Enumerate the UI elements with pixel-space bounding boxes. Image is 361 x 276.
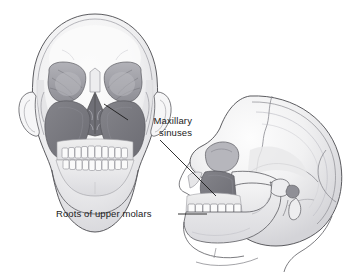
- skull-illustration: [0, 0, 361, 276]
- lateral-lower-jaw-bottom: [196, 258, 258, 265]
- anterior-left-orbit-highlight: [55, 72, 81, 96]
- nasal-bone: [90, 68, 100, 92]
- label-maxillary-sinuses-line1: Maxillary: [130, 115, 192, 127]
- anterior-right-orbit-highlight: [109, 72, 135, 96]
- anterior-upper-teeth: [62, 146, 128, 158]
- label-maxillary-sinuses-line2: sinuses: [130, 127, 192, 139]
- label-maxillary-sinuses: Maxillary sinuses: [130, 115, 192, 138]
- label-roots-of-upper-molars: Roots of upper molars: [56, 208, 152, 220]
- anatomy-figure: Maxillary sinuses Roots of upper molars: [0, 0, 361, 276]
- anterior-lower-teeth: [63, 160, 128, 171]
- lateral-external-acoustic-meatus: [286, 185, 299, 198]
